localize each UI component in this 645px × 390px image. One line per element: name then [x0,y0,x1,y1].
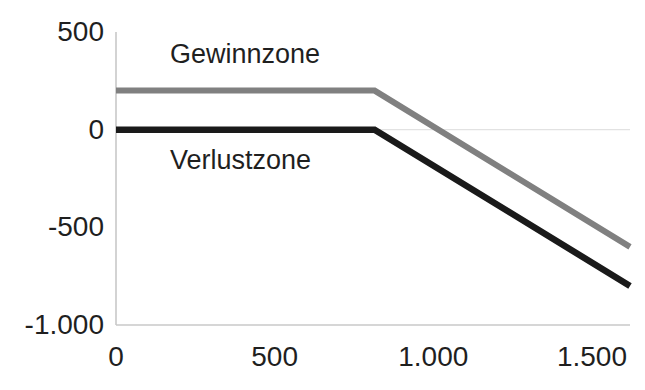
annotation-verlustzone: Verlustzone [170,147,311,174]
x-tick-label: 500 [251,343,298,371]
x-tick-label: 1.500 [557,343,627,371]
x-tick-label: 0 [108,343,124,371]
chart-container: 500 0 -500 -1.000 0 500 1.000 1.500 Gewi… [0,0,645,390]
y-tick-label: -500 [48,213,104,241]
y-tick-label: -1.000 [25,311,104,339]
x-tick-label: 1.000 [398,343,468,371]
y-tick-label: 500 [57,18,104,46]
annotation-gewinnzone: Gewinnzone [170,41,320,68]
y-tick-label: 0 [88,116,104,144]
